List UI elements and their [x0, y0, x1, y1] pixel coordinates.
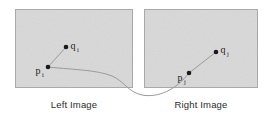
label-p-j-text: p — [178, 72, 183, 83]
right-image-panel[interactable] — [145, 10, 258, 88]
point-p-j[interactable] — [187, 71, 192, 76]
caption-left-image: Left Image — [15, 99, 133, 111]
caption-right-image: Right Image — [144, 99, 258, 111]
label-p-j-subscript: j — [183, 78, 186, 85]
point-p-i[interactable] — [46, 65, 51, 70]
label-q-j-text: q — [221, 44, 226, 55]
label-p-i-text: p — [36, 65, 41, 76]
right-image-panel-frame — [145, 10, 258, 88]
point-q-j[interactable] — [214, 50, 219, 55]
label-q-i-subscript: i — [77, 46, 79, 53]
figure-root: p i q i p j q j Left Image Right Image — [0, 0, 268, 121]
point-q-i[interactable] — [64, 45, 69, 50]
label-q-j-subscript: j — [226, 50, 229, 57]
label-p-i-subscript: i — [42, 71, 44, 78]
label-q-i-text: q — [71, 40, 76, 51]
